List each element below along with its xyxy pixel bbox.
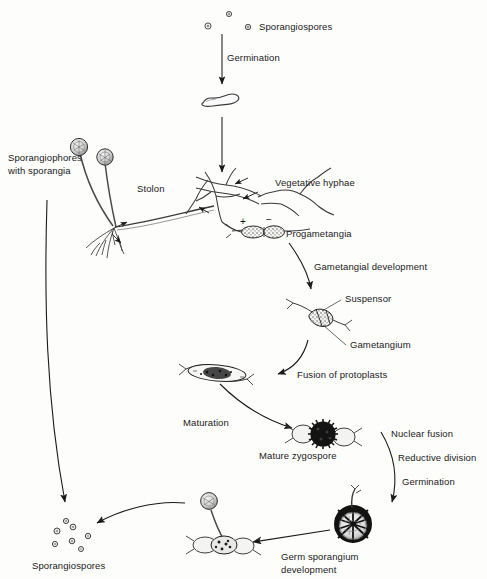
arrow-gametangial-development: [289, 243, 311, 289]
rhizoids: [86, 228, 124, 258]
arrow-maturation: [220, 384, 292, 428]
sporangiospores-bottom-cluster: [52, 518, 90, 551]
germinating-spore: [202, 94, 239, 106]
arrow-sporangiophores-to-spores: [46, 200, 65, 502]
arrow-nuclear-fusion-germination: [381, 432, 395, 502]
label-maturation: Maturation: [183, 417, 229, 429]
label-progametangia: Progametangia: [286, 228, 352, 240]
label-vegetative-hyphae: Vegetative hyphae: [275, 177, 355, 189]
sporangium-head-2: [97, 149, 113, 165]
leader-suspensor: [322, 300, 341, 311]
gametangia-structure: [286, 299, 352, 331]
label-reductive-division: Reductive division: [398, 452, 476, 464]
arrow-germsporangium-to-spores: [97, 502, 185, 523]
life-cycle-diagram: Sporangiospores Germination Sporangiopho…: [0, 0, 487, 579]
arrow-germ-sporangium-development: [253, 530, 330, 542]
label-gametangium: Gametangium: [350, 339, 411, 351]
label-germ-sporangium-line1: Germ sporangium: [281, 551, 359, 563]
label-fusion-of-protoplasts: Fusion of protoplasts: [297, 369, 387, 381]
zygospore-body: [308, 419, 338, 449]
stolon-hypha: [115, 206, 214, 227]
label-stolon: Stolon: [137, 183, 165, 195]
label-sporangiospores-bottom: Sporangiospores: [32, 560, 105, 572]
sporangiospores-top-cluster: [205, 11, 251, 29]
label-germination-top: Germination: [227, 52, 280, 64]
label-nuclear-fusion: Nuclear fusion: [391, 428, 453, 440]
mature-zygospore: [285, 419, 362, 449]
germ-sporangium-structure: [186, 493, 261, 555]
label-germination-right: Germination: [402, 476, 455, 488]
germinating-zygospore: [334, 485, 372, 543]
label-mating-type-minus: −: [266, 214, 272, 225]
label-mating-type-plus: +: [240, 216, 246, 227]
leader-gametangium: [323, 325, 346, 345]
label-mature-zygospore: Mature zygospore: [259, 450, 337, 462]
label-suspensor: Suspensor: [345, 293, 391, 305]
label-germ-sporangium-line2: development: [281, 564, 337, 576]
diagram-canvas: [0, 0, 487, 579]
label-gametangial-development: Gametangial development: [314, 261, 427, 273]
zygote-fusion-cell: [179, 363, 254, 385]
label-sporangiospores-top: Sporangiospores: [259, 21, 332, 33]
label-sporangiophores-line1: Sporangiophores: [8, 152, 82, 164]
label-sporangiophores-line2: with sporangia: [8, 165, 71, 177]
